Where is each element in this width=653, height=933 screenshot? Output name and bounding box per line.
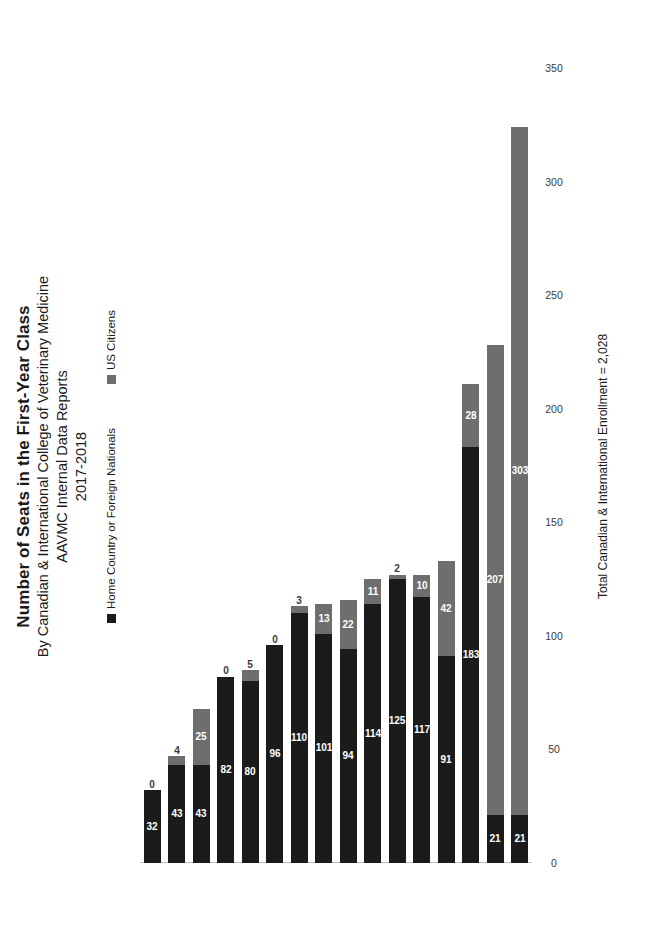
bar-segment-home-country: 21 <box>511 815 528 863</box>
bar-value-label: 42 <box>441 604 452 614</box>
bar-segment-us-citizens: 11 <box>364 579 381 604</box>
bar-row: 11710 <box>413 68 430 863</box>
bar-value-label: 43 <box>171 809 182 819</box>
bar-value-label: 32 <box>147 822 158 832</box>
bar-row: 21207 <box>487 68 504 863</box>
chart-subtitle-line-3: 2017-2018 <box>72 0 91 933</box>
chart-annotation: Total Canadian & International Enrollmen… <box>596 0 610 933</box>
axis-tick-label: 200 <box>548 400 560 418</box>
bar-row: 21303 <box>511 68 528 863</box>
bar-segment-us-citizens: 42 <box>438 561 455 656</box>
bar-segment-us-citizens: 4 <box>168 756 185 765</box>
bar-segment-us-citizens: 28 <box>462 384 479 448</box>
chart-title: Number of Seats in the First-Year Class <box>14 0 34 933</box>
bar-value-label: 110 <box>291 733 307 743</box>
bar-segment-us-citizens: 10 <box>413 575 430 598</box>
bar-value-label: 10 <box>416 581 427 591</box>
bar-value-label: 207 <box>487 575 504 585</box>
bar-row: 320 <box>144 68 161 863</box>
bar-row: 4325 <box>193 68 210 863</box>
bar-row: 820 <box>217 68 234 863</box>
bar-value-label: 94 <box>343 751 354 761</box>
bar-segment-us-citizens: 25 <box>193 709 210 766</box>
legend-label: US Citizens <box>105 310 117 370</box>
bar-row: 9422 <box>340 68 357 863</box>
bar-value-label: 25 <box>196 732 207 742</box>
chart-titles: Number of Seats in the First-Year Class … <box>14 0 91 933</box>
bar-segment-home-country: 21 <box>487 815 504 863</box>
bar-segment-home-country: 117 <box>413 597 430 863</box>
bar-segment-home-country: 80 <box>242 681 259 863</box>
bar-value-label: 5 <box>247 659 253 669</box>
bar-row: 1252 <box>389 68 406 863</box>
bar-row: 1103 <box>291 68 308 863</box>
legend-swatch-icon <box>107 614 116 623</box>
bar-value-label: 3 <box>296 596 302 606</box>
bar-row: 11411 <box>364 68 381 863</box>
bar-value-label: 183 <box>462 650 479 660</box>
bar-segment-home-country: 43 <box>168 765 185 863</box>
bar-value-label: 21 <box>490 834 501 844</box>
bar-value-label: 80 <box>245 767 256 777</box>
bar-value-label: 101 <box>315 743 332 753</box>
bar-segment-home-country: 183 <box>462 447 479 863</box>
bar-segment-home-country: 94 <box>340 650 357 864</box>
bar-row: 18328 <box>462 68 479 863</box>
axis-tick-label: 250 <box>548 286 560 304</box>
bar-segment-home-country: 32 <box>144 790 161 863</box>
bar-value-label: 2 <box>394 564 400 574</box>
axis-tick-label: 0 <box>548 860 560 866</box>
bar-row: 9142 <box>438 68 455 863</box>
bar-segment-home-country: 101 <box>315 634 332 863</box>
bar-segment-home-country: 96 <box>266 645 283 863</box>
plot-area: 3204344325820805960110310113942211411125… <box>140 68 532 863</box>
bar-value-label: 125 <box>389 716 406 726</box>
legend-label: Home Country or Foreign Nationals <box>105 428 117 609</box>
bar-value-label: 0 <box>223 666 229 676</box>
bar-value-label: 82 <box>220 765 231 775</box>
bar-segment-home-country: 114 <box>364 604 381 863</box>
bar-segment-us-citizens: 207 <box>487 345 504 815</box>
bar-segment-us-citizens: 3 <box>291 606 308 613</box>
bar-value-label: 303 <box>511 466 528 476</box>
bar-segment-us-citizens: 22 <box>340 600 357 650</box>
bar-segment-home-country: 91 <box>438 656 455 863</box>
bar-value-label: 91 <box>441 755 452 765</box>
bar-row: 805 <box>242 68 259 863</box>
axis-tick-label: 350 <box>548 59 560 77</box>
chart-subtitle-line-2: AAVMC Internal Data Reports <box>53 0 72 933</box>
axis-tick-label: 100 <box>548 627 560 645</box>
bar-value-label: 11 <box>367 587 378 597</box>
bar-value-label: 117 <box>414 725 430 735</box>
bar-segment-home-country: 43 <box>193 765 210 863</box>
bar-segment-home-country: 125 <box>389 579 406 863</box>
value-axis-ticks: 050100150200250300350 <box>548 68 588 863</box>
bar-value-label: 13 <box>318 614 329 624</box>
bar-segment-home-country: 110 <box>291 613 308 863</box>
axis-tick-label: 150 <box>548 514 560 532</box>
bar-value-label: 114 <box>365 729 381 739</box>
chart-legend: Home Country or Foreign Nationals US Cit… <box>105 0 117 933</box>
bar-value-label: 43 <box>196 809 207 819</box>
legend-swatch-icon <box>107 375 116 384</box>
bar-segment-us-citizens: 303 <box>511 127 528 815</box>
bar-value-label: 0 <box>149 780 155 790</box>
bar-segment-home-country: 82 <box>217 677 234 863</box>
bar-value-label: 28 <box>465 411 476 421</box>
bar-segment-us-citizens: 5 <box>242 670 259 681</box>
bar-value-label: 0 <box>272 634 278 644</box>
bar-segment-us-citizens: 2 <box>389 575 406 580</box>
chart-stage: Number of Seats in the First-Year Class … <box>0 0 653 933</box>
chart-subtitle-line-1: By Canadian & International College of V… <box>34 0 53 933</box>
legend-item-us-citizens: US Citizens <box>105 310 117 384</box>
axis-tick-label: 50 <box>548 744 560 756</box>
legend-item-home-country: Home Country or Foreign Nationals <box>105 428 117 623</box>
bar-value-label: 4 <box>174 745 180 755</box>
bar-value-label: 96 <box>269 749 280 759</box>
annotation-text: Total Canadian & International Enrollmen… <box>596 334 610 599</box>
bar-group: 3204344325820805960110310113942211411125… <box>140 68 532 863</box>
axis-tick-label: 300 <box>548 173 560 191</box>
bar-value-label: 21 <box>514 834 525 844</box>
bar-segment-us-citizens: 13 <box>315 604 332 634</box>
bar-row: 434 <box>168 68 185 863</box>
